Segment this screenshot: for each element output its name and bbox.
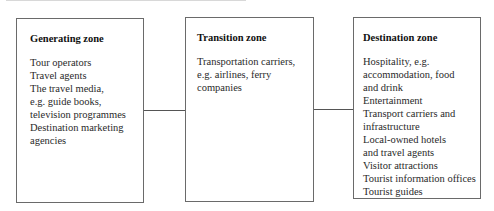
- transition-zone-list: Transportation carriers, e.g. airlines, …: [197, 55, 303, 94]
- generating-zone-list: Tour operators Travel agents The travel …: [30, 56, 133, 147]
- list-item: Hospitality, e.g. accommodation, food an…: [363, 55, 476, 94]
- list-item: Entertainment: [363, 94, 476, 107]
- list-item: Tourist guides: [363, 185, 476, 198]
- list-item: Destination marketing agencies: [30, 121, 133, 147]
- transition-zone-box: Transition zone Transportation carriers,…: [185, 17, 314, 202]
- transition-zone-title: Transition zone: [197, 32, 303, 43]
- list-item: Travel agents: [30, 69, 133, 82]
- list-item: Transportation carriers, e.g. airlines, …: [197, 55, 303, 94]
- list-item: Transport carriers and infrastructure: [363, 107, 476, 133]
- destination-zone-box: Destination zone Hospitality, e.g. accom…: [353, 17, 481, 199]
- connector-transition-destination: [314, 109, 353, 110]
- generating-zone-box: Generating zone Tour operators Travel ag…: [16, 18, 144, 203]
- top-rule: [6, 0, 246, 1]
- generating-zone-title: Generating zone: [30, 33, 133, 44]
- list-item: Tourist information offices: [363, 172, 476, 185]
- destination-zone-list: Hospitality, e.g. accommodation, food an…: [363, 55, 476, 198]
- connector-generating-transition: [144, 110, 185, 111]
- list-item: Visitor attractions: [363, 159, 476, 172]
- list-item: The travel media, e.g. guide books, tele…: [30, 82, 133, 121]
- destination-zone-title: Destination zone: [363, 32, 476, 43]
- list-item: Tour operators: [30, 56, 133, 69]
- list-item: Local-owned hotels and travel agents: [363, 133, 476, 159]
